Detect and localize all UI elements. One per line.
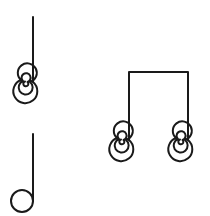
- beamed-notes-icon: [109, 72, 192, 161]
- half-note-icon: [11, 134, 33, 212]
- spiral-note-icon: [13, 17, 37, 103]
- music-notes-figure: [0, 0, 210, 216]
